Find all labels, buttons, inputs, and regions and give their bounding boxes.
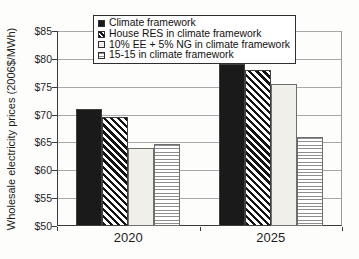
x-tick-mark: [342, 227, 343, 231]
bar-chart-figure: Wholesale electricity prices (2006$/MWh)…: [0, 0, 359, 259]
x-category-label: 2020: [114, 230, 143, 245]
y-tick-label: $50: [20, 221, 52, 232]
legend-marker-horizontal-lines: [98, 52, 105, 59]
y-tick-mark: [52, 59, 57, 60]
y-axis-title: Wholesale electricity prices (2006$/MWh): [0, 31, 22, 226]
y-tick-label: $55: [20, 193, 52, 204]
legend-marker-solid-black: [98, 20, 105, 27]
x-tick-mark: [57, 227, 58, 231]
y-tick-mark: [52, 170, 57, 171]
y-tick-mark: [52, 198, 57, 199]
legend-marker-light-gray: [98, 41, 105, 48]
bar-2020-series-1: [102, 117, 128, 226]
legend-marker-diagonal-hatch: [98, 31, 105, 38]
x-category-label: 2025: [256, 230, 285, 245]
y-tick-mark: [52, 115, 57, 116]
x-tick-mark: [200, 227, 201, 231]
bar-2020-series-0: [76, 109, 102, 226]
bar-2020-series-3: [154, 144, 180, 226]
bar-2025-series-1: [245, 70, 271, 226]
y-tick-mark: [52, 31, 57, 32]
bar-2025-series-2: [271, 84, 297, 226]
y-tick-mark: [52, 87, 57, 88]
gridline: [58, 87, 341, 88]
bar-2025-series-3: [297, 137, 323, 226]
legend-label: 15-15 in climate framework: [109, 50, 234, 61]
y-tick-label: $65: [20, 137, 52, 148]
y-tick-label: $80: [20, 54, 52, 65]
y-tick-label: $70: [20, 110, 52, 121]
legend-item-1: House RES in climate framework: [98, 29, 290, 40]
y-tick-label: $75: [20, 82, 52, 93]
y-tick-label: $60: [20, 165, 52, 176]
y-tick-mark: [52, 142, 57, 143]
y-tick-label: $85: [20, 26, 52, 37]
bar-2025-series-0: [219, 64, 245, 226]
legend-label: House RES in climate framework: [109, 29, 261, 40]
legend-item-3: 15-15 in climate framework: [98, 50, 290, 61]
bar-2020-series-2: [128, 148, 154, 226]
y-axis-title-text: Wholesale electricity prices (2006$/MWh): [5, 27, 17, 229]
legend: Climate frameworkHouse RES in climate fr…: [93, 15, 296, 64]
